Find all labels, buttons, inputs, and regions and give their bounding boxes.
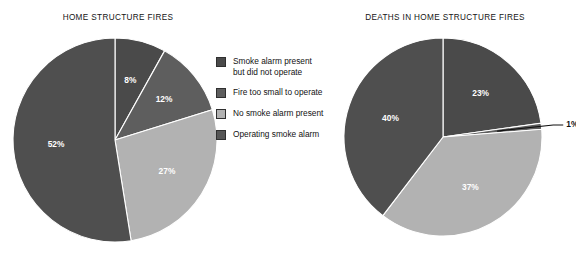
chart-title-right: DEATHS IN HOME STRUCTURE FIRES — [320, 13, 570, 22]
pie-slice-label: 27% — [159, 166, 176, 176]
legend-item-label: Fire too small to operate — [233, 87, 322, 98]
pie-slice-label: 40% — [382, 113, 399, 123]
legend-color-swatch — [216, 130, 226, 140]
pie-slice-label: 8% — [124, 75, 137, 85]
chart-title-left: HOME STRUCTURE FIRES — [0, 13, 236, 22]
pie-svg-right: 23%1%37%40% — [343, 37, 543, 237]
pie-slice[interactable] — [13, 38, 131, 242]
legend-item[interactable]: Operating smoke alarm — [216, 129, 334, 140]
legend-item-label: No smoke alarm present — [233, 108, 323, 119]
pie-slice-label: 12% — [156, 94, 173, 104]
pie-chart-home-structure-fires: 8%12%27%52% — [12, 37, 218, 243]
pie-chart-deaths-in-home-structure-fires: 23%1%37%40% — [343, 37, 543, 237]
legend: Smoke alarm present but did not operateF… — [216, 56, 334, 140]
pie-svg-left: 8%12%27%52% — [12, 37, 218, 243]
pie-slice-label: 52% — [48, 139, 65, 149]
legend-item-label: Smoke alarm present but did not operate — [233, 56, 312, 77]
pie-chart-figure: HOME STRUCTURE FIRES 8%12%27%52% Smoke a… — [0, 0, 576, 260]
pie-slice-label: 1% — [566, 119, 576, 129]
legend-color-swatch — [216, 88, 226, 98]
legend-item[interactable]: Fire too small to operate — [216, 87, 334, 98]
legend-item-label: Operating smoke alarm — [233, 129, 319, 140]
pie-slice-label: 37% — [462, 182, 479, 192]
legend-color-swatch — [216, 57, 226, 67]
legend-item[interactable]: No smoke alarm present — [216, 108, 334, 119]
pie-slice[interactable] — [443, 38, 541, 137]
legend-color-swatch — [216, 109, 226, 119]
legend-item[interactable]: Smoke alarm present but did not operate — [216, 56, 334, 77]
pie-slice-label: 23% — [472, 88, 489, 98]
